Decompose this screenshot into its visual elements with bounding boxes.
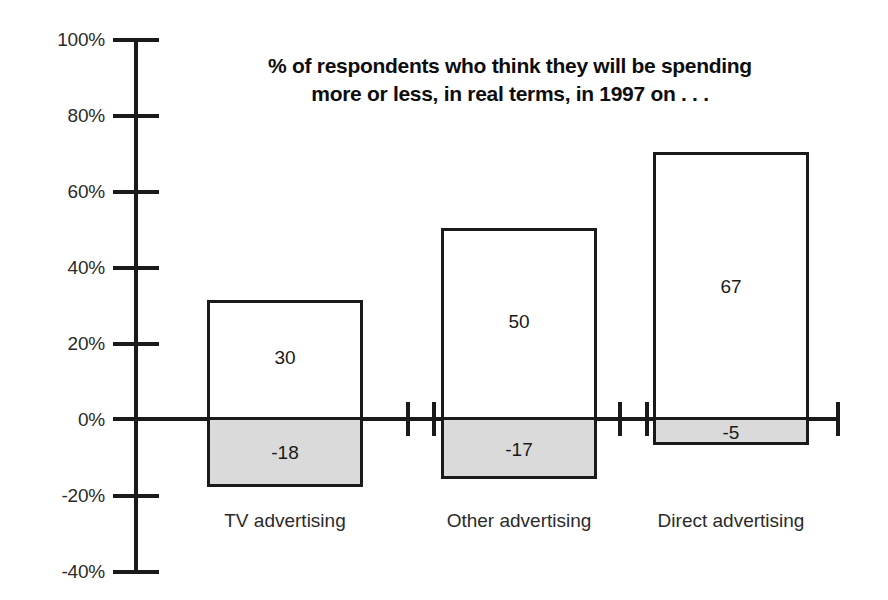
x-tick-0 bbox=[406, 402, 410, 436]
y-axis-label-neg20: -20% bbox=[20, 485, 105, 507]
chart-title: % of respondents who think they will be … bbox=[160, 52, 860, 107]
bar-value-positive-tv-advertising: 30 bbox=[207, 347, 363, 369]
bar-value-negative-other-advertising: -17 bbox=[441, 439, 597, 461]
chart-title-line-1: % of respondents who think they will be … bbox=[160, 52, 860, 80]
chart-title-line-2: more or less, in real terms, in 1997 on … bbox=[160, 80, 860, 108]
category-label-other-advertising: Other advertising bbox=[419, 510, 619, 532]
bar-value-positive-direct-advertising: 67 bbox=[653, 276, 809, 298]
category-label-tv-advertising: TV advertising bbox=[185, 510, 385, 532]
y-axis-label-0: 0% bbox=[20, 409, 105, 431]
y-tick-neg20 bbox=[113, 494, 159, 498]
y-tick-neg40 bbox=[113, 570, 159, 574]
bar-value-negative-direct-advertising: -5 bbox=[653, 422, 809, 444]
y-axis-label-60: 60% bbox=[20, 181, 105, 203]
y-axis-label-100: 100% bbox=[20, 29, 105, 51]
y-axis-label-80: 80% bbox=[20, 105, 105, 127]
y-axis-label-neg40: -40% bbox=[20, 561, 105, 583]
x-tick-2 bbox=[618, 402, 622, 436]
y-tick-20 bbox=[113, 342, 159, 346]
y-axis-spine bbox=[134, 40, 138, 572]
bar-value-negative-tv-advertising: -18 bbox=[207, 442, 363, 464]
bar-chart: % of respondents who think they will be … bbox=[0, 0, 888, 600]
x-tick-3 bbox=[645, 402, 649, 436]
y-tick-80 bbox=[113, 114, 159, 118]
y-tick-40 bbox=[113, 266, 159, 270]
y-axis-label-40: 40% bbox=[20, 257, 105, 279]
category-label-direct-advertising: Direct advertising bbox=[631, 510, 831, 532]
y-tick-60 bbox=[113, 190, 159, 194]
y-tick-100 bbox=[113, 38, 159, 42]
bar-value-positive-other-advertising: 50 bbox=[441, 311, 597, 333]
x-tick-1 bbox=[432, 402, 436, 436]
x-tick-4 bbox=[836, 402, 840, 436]
y-axis-label-20: 20% bbox=[20, 333, 105, 355]
